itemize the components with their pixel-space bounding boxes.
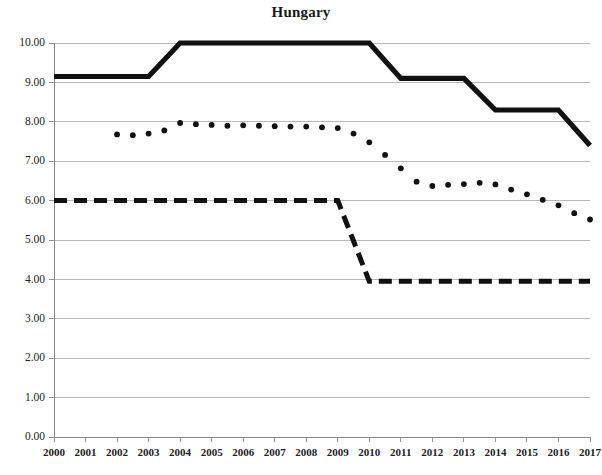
y-axis-tick-label: 10.00 — [19, 36, 45, 48]
data-point-dotted-series — [461, 181, 467, 187]
data-point-dotted-series — [524, 191, 530, 197]
data-point-dotted-series — [366, 139, 372, 145]
y-axis-labels-group: 0.001.002.003.004.005.006.007.008.009.00… — [19, 36, 45, 442]
data-point-dotted-series — [556, 202, 562, 208]
x-axis-tick-label: 2016 — [547, 446, 570, 458]
gridlines-group — [54, 43, 590, 437]
data-point-dotted-series — [177, 120, 183, 126]
series-line-dashed-thick-series — [54, 201, 590, 282]
data-point-dotted-series — [303, 124, 309, 130]
x-axis-tick-label: 2011 — [390, 446, 411, 458]
y-axis-tick-label: 1.00 — [25, 391, 45, 403]
data-point-dotted-series — [335, 125, 341, 131]
data-point-dotted-series — [540, 197, 546, 203]
x-axis-tick-label: 2007 — [264, 446, 287, 458]
data-point-dotted-series — [445, 182, 451, 188]
data-point-dotted-series — [493, 182, 499, 188]
x-axis-group — [54, 43, 590, 442]
y-axis-tick-label: 2.00 — [25, 351, 45, 363]
x-axis-tick-label: 2003 — [138, 446, 161, 458]
x-axis-tick-label: 2013 — [453, 446, 476, 458]
data-point-dotted-series — [114, 132, 120, 138]
x-axis-tick-label: 2004 — [169, 446, 192, 458]
y-axis-tick-label: 7.00 — [25, 154, 45, 166]
data-point-dotted-series — [240, 122, 246, 128]
data-point-dotted-series — [351, 131, 357, 137]
x-axis-tick-label: 2006 — [232, 446, 255, 458]
x-axis-tick-label: 2014 — [484, 446, 507, 458]
data-point-dotted-series — [130, 132, 136, 138]
y-axis-tick-label: 6.00 — [25, 194, 45, 206]
x-axis-tick-label: 2012 — [421, 446, 444, 458]
y-axis-tick-label: 4.00 — [25, 273, 45, 285]
data-point-dotted-series — [256, 123, 262, 129]
x-axis-tick-label: 2001 — [75, 446, 97, 458]
data-series-group — [54, 43, 593, 281]
x-axis-tick-label: 2002 — [106, 446, 129, 458]
x-axis-tick-label: 2000 — [43, 446, 66, 458]
data-point-dotted-series — [477, 180, 483, 186]
y-axis-tick-label: 0.00 — [25, 430, 45, 442]
x-axis-tick-label: 2010 — [358, 446, 381, 458]
x-axis-tick-label: 2008 — [295, 446, 318, 458]
data-point-dotted-series — [209, 122, 215, 128]
data-point-dotted-series — [571, 210, 577, 216]
data-point-dotted-series — [161, 128, 167, 134]
chart-plot-area: 0.001.002.003.004.005.006.007.008.009.00… — [0, 0, 602, 475]
x-axis-tick-label: 2005 — [201, 446, 224, 458]
data-point-dotted-series — [587, 217, 593, 223]
data-point-dotted-series — [225, 123, 231, 129]
y-axis-tick-label: 3.00 — [25, 312, 45, 324]
data-point-dotted-series — [319, 124, 325, 130]
data-point-dotted-series — [429, 183, 435, 189]
x-axis-labels-group: 2000200120022003200420052006200720082009… — [43, 446, 602, 458]
data-point-dotted-series — [414, 179, 420, 185]
y-axis-tick-label: 8.00 — [25, 115, 45, 127]
data-point-dotted-series — [288, 124, 294, 130]
data-point-dotted-series — [382, 152, 388, 158]
chart-container: Hungary 0.001.002.003.004.005.006.007.00… — [0, 0, 602, 475]
data-point-dotted-series — [193, 121, 199, 127]
x-axis-tick-label: 2015 — [516, 446, 539, 458]
data-point-dotted-series — [398, 165, 404, 171]
x-axis-tick-label: 2009 — [327, 446, 350, 458]
data-point-dotted-series — [272, 123, 278, 129]
y-tickmarks-group — [49, 43, 54, 437]
data-point-dotted-series — [508, 187, 514, 193]
y-axis-tick-label: 9.00 — [25, 76, 45, 88]
y-axis-tick-label: 5.00 — [25, 233, 45, 245]
data-point-dotted-series — [146, 131, 152, 137]
x-axis-tick-label: 2017 — [579, 446, 602, 458]
